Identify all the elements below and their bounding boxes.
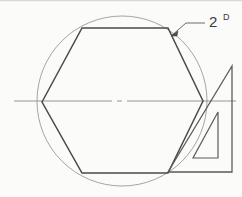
technical-drawing-canvas: 2 D	[0, 0, 242, 197]
drawing-sheet: 2 D	[0, 0, 242, 197]
dimension-label-value: 2	[209, 13, 218, 30]
sheet-background	[0, 0, 242, 197]
dimension-label-superscript: D	[223, 12, 230, 22]
scan-edge-top	[0, 0, 242, 1]
